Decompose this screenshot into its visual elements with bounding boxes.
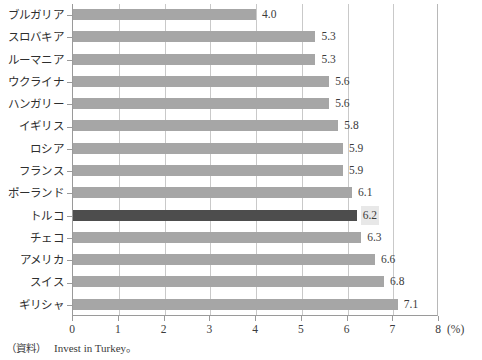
bar-row: 5.9 (73, 138, 437, 160)
bar-row: 6.2 (73, 205, 437, 227)
x-label-2: 2 (161, 321, 167, 337)
category-label-ウクライナ: ウクライナ (8, 71, 65, 93)
x-label-3: 3 (206, 321, 212, 337)
bar-イギリス (73, 120, 338, 131)
plot-area: 4.05.35.35.65.65.85.95.96.16.26.36.66.87… (72, 4, 438, 316)
source-text: Invest in Turkey。 (54, 342, 137, 354)
category-label-ブルガリア: ブルガリア (8, 4, 65, 26)
bar-ブルガリア (73, 9, 256, 20)
x-unit-label: (%) (447, 321, 464, 337)
bar-value-label: 5.8 (342, 116, 360, 135)
category-label-ギリシャ: ギリシャ (19, 294, 64, 316)
category-label-ロシア: ロシア (30, 138, 64, 160)
category-label-チェコ: チェコ (30, 227, 64, 249)
bar-value-label: 5.9 (347, 139, 365, 158)
y-tick (67, 283, 72, 284)
bar-row: 5.3 (73, 49, 437, 71)
bar-スロバキア (73, 31, 315, 42)
y-tick (67, 104, 72, 105)
bar-row: 5.8 (73, 115, 437, 137)
bar-value-label: 7.1 (402, 295, 420, 314)
y-tick (67, 82, 72, 83)
bar-チェコ (73, 232, 361, 243)
bar-アメリカ (73, 254, 375, 265)
y-tick (67, 37, 72, 38)
y-tick (67, 127, 72, 128)
bar-value-label: 5.9 (347, 161, 365, 180)
x-label-4: 4 (252, 321, 258, 337)
bar-chart: ブルガリアスロバキアルーマニアウクライナハンガリーイギリスロシアフランスポーラン… (0, 0, 482, 360)
x-label-5: 5 (298, 321, 304, 337)
bar-value-label: 5.6 (333, 72, 351, 91)
category-axis: ブルガリアスロバキアルーマニアウクライナハンガリーイギリスロシアフランスポーラン… (0, 4, 68, 316)
bar-row: 5.3 (73, 26, 437, 48)
category-label-ポーランド: ポーランド (8, 182, 65, 204)
bar-row: 6.1 (73, 182, 437, 204)
y-tick (67, 216, 72, 217)
category-label-ルーマニア: ルーマニア (8, 49, 65, 71)
bar-value-label: 6.6 (379, 250, 397, 269)
category-label-スロバキア: スロバキア (8, 26, 65, 48)
source-prefix: （資料） (6, 342, 46, 354)
bar-ロシア (73, 143, 343, 154)
bar-value-label: 6.2 (361, 206, 379, 225)
y-tick (67, 238, 72, 239)
category-label-トルコ: トルコ (30, 205, 64, 227)
y-tick (67, 15, 72, 16)
bar-ウクライナ (73, 76, 329, 87)
bar-row: 6.8 (73, 271, 437, 293)
bar-フランス (73, 165, 343, 176)
bar-row: 6.6 (73, 249, 437, 271)
bar-ルーマニア (73, 54, 315, 65)
bar-value-label: 6.1 (356, 183, 374, 202)
source-note: （資料）Invest in Turkey。 (6, 341, 137, 355)
bar-row: 4.0 (73, 4, 437, 26)
bar-トルコ (73, 210, 357, 221)
y-tick (67, 193, 72, 194)
y-tick (67, 171, 72, 172)
bar-value-label: 4.0 (260, 5, 278, 24)
x-label-0: 0 (69, 321, 75, 337)
bar-ギリシャ (73, 299, 398, 310)
category-label-スイス: スイス (30, 271, 64, 293)
x-label-6: 6 (344, 321, 350, 337)
bar-ポーランド (73, 187, 352, 198)
x-label-8: 8 (435, 321, 441, 337)
x-label-7: 7 (389, 321, 395, 337)
bar-row: 6.3 (73, 227, 437, 249)
y-tick (67, 149, 72, 150)
bar-スイス (73, 276, 384, 287)
bar-row: 7.1 (73, 294, 437, 316)
bar-value-label: 5.6 (333, 94, 351, 113)
category-label-ハンガリー: ハンガリー (8, 93, 65, 115)
category-label-イギリス: イギリス (19, 115, 64, 137)
bar-row: 5.6 (73, 93, 437, 115)
bar-value-label: 6.8 (388, 272, 406, 291)
y-tick (67, 60, 72, 61)
bar-ハンガリー (73, 98, 329, 109)
bar-row: 5.6 (73, 71, 437, 93)
category-label-フランス: フランス (19, 160, 64, 182)
bar-value-label: 5.3 (319, 27, 337, 46)
y-tick (67, 260, 72, 261)
bar-row: 5.9 (73, 160, 437, 182)
x-label-1: 1 (115, 321, 121, 337)
y-tick (67, 305, 72, 306)
category-label-アメリカ: アメリカ (20, 249, 64, 271)
bar-value-label: 6.3 (365, 228, 383, 247)
bar-value-label: 5.3 (319, 50, 337, 69)
bar-rows: 4.05.35.35.65.65.85.95.96.16.26.36.66.87… (73, 4, 437, 315)
